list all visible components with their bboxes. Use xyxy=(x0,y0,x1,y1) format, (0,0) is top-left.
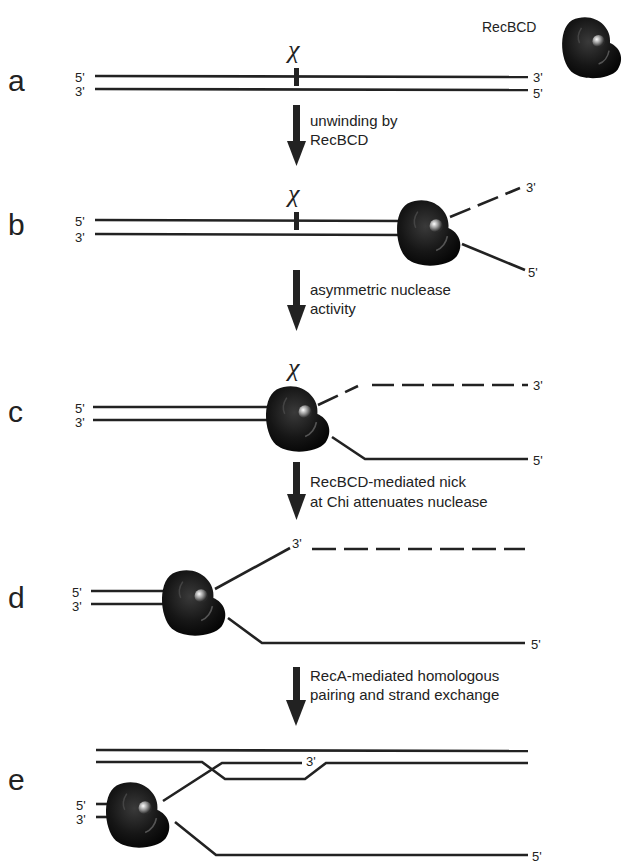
arrow-shaft xyxy=(293,667,300,702)
dna-top-strand xyxy=(95,76,528,77)
arrow-shaft xyxy=(293,270,300,308)
degraded-3prime-strand xyxy=(450,188,520,217)
end-label-3prime: 3' xyxy=(306,754,316,769)
recbcd-enzyme-icon xyxy=(266,386,329,451)
panel-a: a 5' 3' χ 3' 5' RecBCD xyxy=(8,17,621,101)
down-arrow-icon xyxy=(287,305,306,331)
end-label-3prime: 3' xyxy=(533,378,543,393)
recbcd-pathway-diagram: a 5' 3' χ 3' 5' RecBCD unwinding by RecB… xyxy=(0,0,633,865)
chi-symbol: χ xyxy=(285,353,300,382)
step-label-line1: RecA-mediated homologous xyxy=(310,667,499,684)
end-label-5prime: 5' xyxy=(532,849,542,864)
step-label-line1: asymmetric nuclease xyxy=(310,281,451,298)
end-label-3prime: 3' xyxy=(75,84,85,99)
dna-bottom-strand xyxy=(95,89,528,90)
step-3: RecBCD-mediated nick at Chi attenuates n… xyxy=(287,462,488,520)
end-label-5prime: 5' xyxy=(528,265,538,280)
end-label-5prime: 5' xyxy=(531,637,541,652)
recbcd-enzyme-icon xyxy=(106,782,169,847)
chi-symbol: χ xyxy=(285,179,300,208)
down-arrow-icon xyxy=(286,700,306,726)
step-label-line1: RecBCD-mediated nick xyxy=(310,473,466,490)
end-label-3prime: 3' xyxy=(76,812,86,827)
end-label-5prime: 5' xyxy=(75,214,85,229)
down-arrow-icon xyxy=(287,494,306,520)
panel-label-e: e xyxy=(8,763,25,796)
panel-e: e 3' 5' 3' 5' xyxy=(8,750,542,864)
end-label-5prime: 5' xyxy=(75,70,85,85)
end-label-5prime: 5' xyxy=(72,585,82,600)
end-label-3prime: 3' xyxy=(533,70,543,85)
chi-site-marker xyxy=(294,68,299,86)
panel-b: b 5' 3' χ 3' 5' xyxy=(8,179,538,280)
step-label-line1: unwinding by xyxy=(310,112,398,129)
invading-3prime-strand xyxy=(163,763,302,801)
panel-label-b: b xyxy=(8,208,25,241)
5prime-tail-strand xyxy=(332,437,528,459)
chi-symbol: χ xyxy=(285,35,300,64)
end-label-5prime: 5' xyxy=(533,453,543,468)
5prime-tail-strand xyxy=(462,244,525,270)
step-label-line2: activity xyxy=(310,300,356,317)
arrow-shaft xyxy=(293,105,300,143)
recbcd-enzyme-icon xyxy=(162,570,225,635)
panel-label-a: a xyxy=(8,64,25,97)
step-4: RecA-mediated homologous pairing and str… xyxy=(286,667,499,726)
end-label-3prime: 3' xyxy=(72,599,82,614)
step-1: unwinding by RecBCD xyxy=(287,105,398,166)
dna-bottom-strand xyxy=(95,234,405,235)
end-label-3prime: 3' xyxy=(526,180,536,195)
degraded-3prime-strand xyxy=(318,386,358,405)
end-label-3prime: 3' xyxy=(75,230,85,245)
panel-c: c 5' 3' χ 3' 5' xyxy=(8,353,543,468)
panel-label-c: c xyxy=(8,395,23,428)
step-2: asymmetric nuclease activity xyxy=(287,270,451,331)
end-label-3prime: 3' xyxy=(292,536,302,551)
dna-top-strand xyxy=(95,220,405,221)
end-label-5prime: 5' xyxy=(76,798,86,813)
step-label-line2: RecBCD xyxy=(310,131,369,148)
recbcd-enzyme-icon xyxy=(397,200,460,265)
enzyme-label: RecBCD xyxy=(482,19,536,35)
chi-site-marker xyxy=(294,212,299,230)
recbcd-enzyme-icon xyxy=(562,17,621,78)
end-label-3prime: 3' xyxy=(75,415,85,430)
5prime-tail-strand xyxy=(175,822,528,855)
end-label-5prime: 5' xyxy=(75,401,85,416)
homolog-top-strand xyxy=(96,750,528,751)
arrow-shaft xyxy=(293,462,300,498)
panel-label-d: d xyxy=(8,581,25,614)
panel-d: d 5' 3' 3' 5' xyxy=(8,536,541,652)
step-label-line2: pairing and strand exchange xyxy=(310,686,499,703)
down-arrow-icon xyxy=(287,141,306,166)
5prime-tail-strand xyxy=(228,618,525,643)
3prime-tail-strand xyxy=(215,548,290,589)
step-label-line2: at Chi attenuates nuclease xyxy=(310,493,488,510)
end-label-5prime: 5' xyxy=(533,86,543,101)
